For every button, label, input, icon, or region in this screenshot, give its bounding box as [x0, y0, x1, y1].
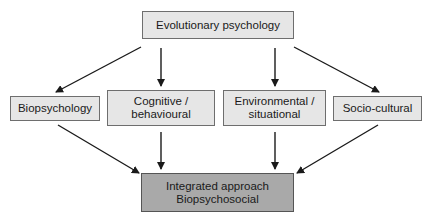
biopsychology-box: Biopsychology: [10, 96, 100, 121]
environmental-situational-label: Environmental / situational: [235, 95, 315, 121]
arrow-bio-to-int: [58, 125, 139, 173]
environmental-situational-box: Environmental / situational: [223, 90, 326, 126]
arrow-evo-to-soc: [294, 47, 379, 92]
evolutionary-psychology-box: Evolutionary psychology: [142, 11, 294, 39]
cognitive-behavioural-label: Cognitive / behavioural: [131, 95, 190, 121]
integrated-approach-box: Integrated approach Biopsychosocial: [141, 173, 294, 212]
integrated-approach-label: Integrated approach Biopsychosocial: [166, 180, 269, 206]
arrow-evo-to-bio: [56, 47, 141, 92]
evolutionary-psychology-label: Evolutionary psychology: [156, 19, 280, 32]
arrow-soc-to-int: [297, 125, 378, 173]
socio-cultural-label: Socio-cultural: [343, 102, 413, 115]
biopsychology-label: Biopsychology: [18, 102, 92, 115]
cognitive-behavioural-box: Cognitive / behavioural: [107, 90, 215, 126]
socio-cultural-box: Socio-cultural: [333, 96, 422, 121]
